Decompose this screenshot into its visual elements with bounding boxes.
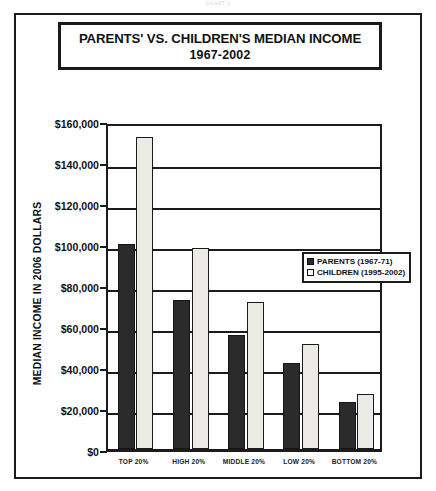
legend-item: PARENTS (1967-71) xyxy=(307,256,405,267)
top-caption: CHART 1 xyxy=(0,0,436,6)
x-tick-label: HIGH 20% xyxy=(172,458,205,465)
bar-parents xyxy=(228,335,245,449)
x-tick-label: LOW 20% xyxy=(283,458,315,465)
chart-figure: CHART 1 PARENTS' VS. CHILDREN'S MEDIAN I… xyxy=(0,0,436,491)
legend-swatch-children-icon xyxy=(307,269,314,276)
chart-title-box: PARENTS' VS. CHILDREN'S MEDIAN INCOME 19… xyxy=(58,22,382,70)
bar-parents xyxy=(339,402,356,449)
bar-children xyxy=(247,302,264,449)
bar-parents xyxy=(283,363,300,449)
bar-parents xyxy=(118,244,135,449)
bar-children xyxy=(302,344,319,449)
x-tick-label: MIDDLE 20% xyxy=(223,458,265,465)
x-tick-label: BOTTOM 20% xyxy=(332,458,377,465)
legend-label: CHILDREN (1995-2002) xyxy=(317,267,405,278)
chart-legend: PARENTS (1967-71)CHILDREN (1995-2002) xyxy=(302,252,411,283)
legend-item: CHILDREN (1995-2002) xyxy=(307,267,405,278)
legend-swatch-parents-icon xyxy=(307,258,314,265)
bar-children xyxy=(192,248,209,449)
legend-label: PARENTS (1967-71) xyxy=(317,256,392,267)
bar-children xyxy=(357,394,374,449)
chart-title-line1: PARENTS' VS. CHILDREN'S MEDIAN INCOME xyxy=(79,31,361,46)
x-tick-label: TOP 20% xyxy=(119,458,149,465)
y-axis-title: MEDIAN INCOME IN 2006 DOLLARS xyxy=(32,179,43,409)
plot-area xyxy=(106,124,382,452)
bar-children xyxy=(136,137,153,449)
bar-parents xyxy=(173,300,190,449)
chart-title-line2: 1967-2002 xyxy=(189,48,250,62)
